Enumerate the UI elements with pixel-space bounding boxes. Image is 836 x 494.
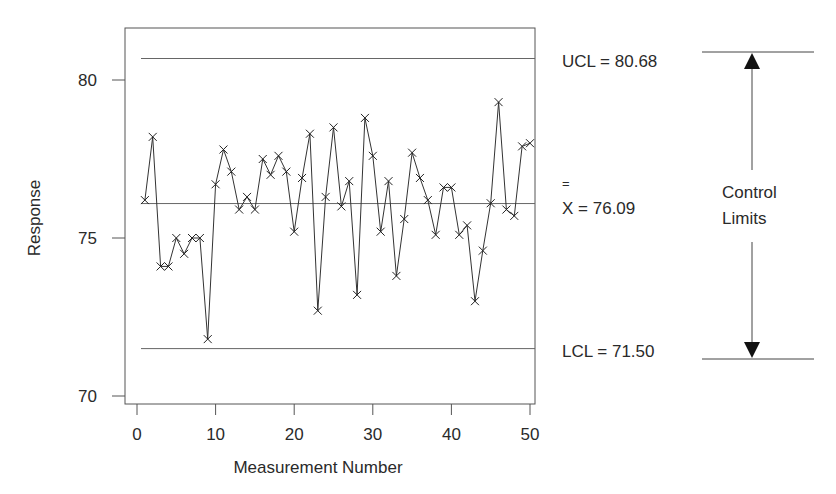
x-marker-icon bbox=[526, 139, 534, 147]
plot-frame bbox=[125, 28, 535, 404]
x-tick-label: 20 bbox=[285, 425, 304, 444]
lcl-label: LCL = 71.50 bbox=[562, 342, 654, 361]
arrow-up-icon bbox=[744, 53, 760, 69]
x-marker-icon bbox=[424, 196, 432, 204]
x-marker-icon bbox=[274, 152, 282, 160]
x-marker-icon bbox=[243, 193, 251, 201]
mean-overbar: = bbox=[562, 176, 570, 191]
x-tick-label: 40 bbox=[442, 425, 461, 444]
x-marker-icon bbox=[172, 234, 180, 242]
arrow-down-icon bbox=[744, 342, 760, 358]
control-limits-label-line2: Limits bbox=[722, 209, 766, 228]
x-tick-label: 30 bbox=[363, 425, 382, 444]
mean-label: X = 76.09 bbox=[562, 199, 635, 218]
control-chart: 707580 01020304050 Measurement Number Re… bbox=[0, 0, 836, 494]
x-marker-icon bbox=[219, 146, 227, 154]
x-tick-label: 50 bbox=[521, 425, 540, 444]
x-axis: 01020304050 bbox=[132, 404, 539, 444]
x-marker-icon bbox=[235, 206, 243, 214]
x-axis-label: Measurement Number bbox=[233, 458, 402, 477]
y-tick-label: 75 bbox=[78, 229, 97, 248]
ucl-label: UCL = 80.68 bbox=[562, 52, 657, 71]
x-marker-icon bbox=[180, 250, 188, 258]
y-tick-label: 80 bbox=[78, 71, 97, 90]
y-axis-label: Response bbox=[25, 180, 44, 257]
x-tick-label: 0 bbox=[132, 425, 141, 444]
data-series bbox=[141, 98, 534, 343]
x-marker-icon bbox=[267, 171, 275, 179]
x-tick-label: 10 bbox=[206, 425, 225, 444]
y-axis: 707580 bbox=[78, 71, 125, 406]
control-limits-label-line1: Control bbox=[722, 183, 777, 202]
y-tick-label: 70 bbox=[78, 387, 97, 406]
x-marker-icon bbox=[227, 168, 235, 176]
x-marker-icon bbox=[416, 174, 424, 182]
